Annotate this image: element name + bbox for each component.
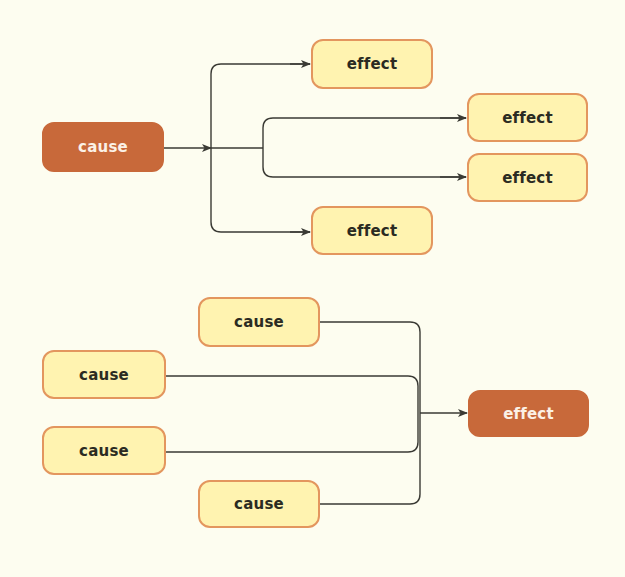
top-cause-node: cause [42,122,164,172]
effect-node-3: effect [467,153,588,202]
merge-bracket-inner [166,376,418,452]
cause-node-2: cause [42,350,166,399]
node-label: effect [503,405,554,423]
cause-node-3: cause [42,426,166,475]
bottom-effect-node: effect [468,390,589,437]
split-bracket-inner [263,118,466,177]
cause-node-1: cause [198,297,320,347]
effect-node-4: effect [311,206,433,255]
node-label: cause [79,442,129,460]
node-label: cause [234,495,284,513]
merge-bracket-outer [320,322,420,504]
node-label: effect [347,222,398,240]
cause-effect-diagrams: cause effect effect effect effect cause … [0,0,625,577]
effect-node-2: effect [467,93,588,142]
node-label: effect [502,109,553,127]
node-label: cause [234,313,284,331]
cause-node-4: cause [198,480,320,528]
node-label: cause [79,366,129,384]
node-label: cause [78,138,128,156]
effect-node-1: effect [311,39,433,89]
node-label: effect [502,169,553,187]
node-label: effect [347,55,398,73]
